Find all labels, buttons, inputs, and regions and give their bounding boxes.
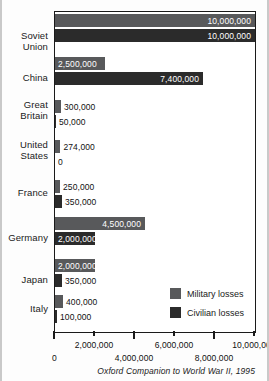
legend-label: Civilian losses [187,308,244,318]
bars: 2,000,000350,000 [55,259,95,287]
bar-military-losses: 300,000 [55,100,61,113]
legend-swatch-military-icon [170,288,181,299]
axis-tick-label: 8,000,000 [195,353,234,363]
bar-value-label: 50,000 [59,117,86,127]
bar-value-label: 10,000,000 [207,16,251,26]
bar-value-label: 300,000 [64,102,95,112]
bar-military-losses: 4,500,000 [55,217,145,230]
axis-tick-label: 0 [52,353,57,363]
axis-tick [93,331,94,336]
bar-military-losses: 2,500,000 [55,57,105,70]
bar-value-label: 4,500,000 [102,219,141,229]
bar-value-label: 100,000 [60,312,91,322]
bar-value-label: 2,000,000 [58,234,97,244]
category-label-line: Germany [2,232,48,243]
category-label: China [2,72,48,83]
axis-tick-label: 4,000,000 [115,353,154,363]
chart-legend: Military lossesCivilian losses [170,286,244,324]
axis-tick [133,331,134,339]
category-label: Italy [2,303,48,314]
bars: 4,500,0002,000,000 [55,217,145,245]
bar-military-losses: 400,000 [55,295,63,308]
category-label: UnitedStates [2,139,48,161]
category-label-line: States [2,150,48,161]
axis-tick [173,331,174,336]
axis-tick-label: 10,000,000 [232,340,269,350]
bar-military-losses: 274,000 [55,140,60,153]
category-label-line: France [2,187,48,198]
category-label: SovietUnion [2,30,48,52]
bar-civilian-losses: 350,000 [55,274,62,287]
bars: 274,0000 [55,140,60,168]
legend-item: Military losses [170,286,244,301]
axis-tick-label: 2,000,000 [75,340,114,350]
bar-value-label: 2,500,000 [58,59,97,69]
bar-spacer [55,153,60,155]
bars: 2,500,0007,400,000 [55,57,203,85]
bar-civilian-losses: 10,000,000 [55,29,255,42]
category-label-line: China [2,72,48,83]
bar-military-losses: 10,000,000 [55,14,255,27]
axis-tick [213,331,214,339]
bar-civilian-losses: 50,000 [55,115,56,128]
bars: 250,000350,000 [55,180,62,208]
legend-swatch-civilian-icon [170,307,181,318]
bar-military-losses: 250,000 [55,180,60,193]
category-label-line: Japan [2,274,48,285]
legend-item: Civilian losses [170,305,244,320]
bar-value-label: 10,000,000 [207,31,251,41]
bar-value-label: 350,000 [65,197,96,207]
bar-value-label: 274,000 [63,142,94,152]
bar-civilian-losses: 7,400,000 [55,72,203,85]
category-label-line: Great [2,99,48,110]
category-label: France [2,187,48,198]
bar-civilian-losses: 2,000,000 [55,232,95,245]
bar-value-label: 400,000 [66,297,97,307]
category-label: Japan [2,274,48,285]
bar-value-label: 7,400,000 [160,74,199,84]
bar-value-label: 2,000,000 [58,261,97,271]
bars: 300,00050,000 [55,100,61,128]
bars: 400,000100,000 [55,295,63,323]
category-label-line: Italy [2,303,48,314]
category-label-line: Britain [2,110,48,121]
bar-civilian-losses: 100,000 [55,310,57,323]
category-label: Germany [2,232,48,243]
bar-value-label: 350,000 [65,276,96,286]
category-label-line: Soviet [2,30,48,41]
source-attribution: Oxford Companion to World War II, 1995 [97,366,255,376]
category-label: GreatBritain [2,99,48,121]
bar-military-losses: 2,000,000 [55,259,95,272]
axis-tick-label: 6,000,000 [155,340,194,350]
bar-value-label: 250,000 [63,182,94,192]
bar-value-label: 0 [58,157,63,167]
bar-civilian-losses: 350,000 [55,195,62,208]
category-label-line: United [2,139,48,150]
legend-label: Military losses [187,289,244,299]
wwii-casualties-chart: SovietUnion10,000,00010,000,000China2,50… [0,0,269,381]
category-label-line: Union [2,41,48,52]
bars: 10,000,00010,000,000 [55,14,255,42]
axis-tick [253,331,254,336]
axis-tick [53,331,54,339]
